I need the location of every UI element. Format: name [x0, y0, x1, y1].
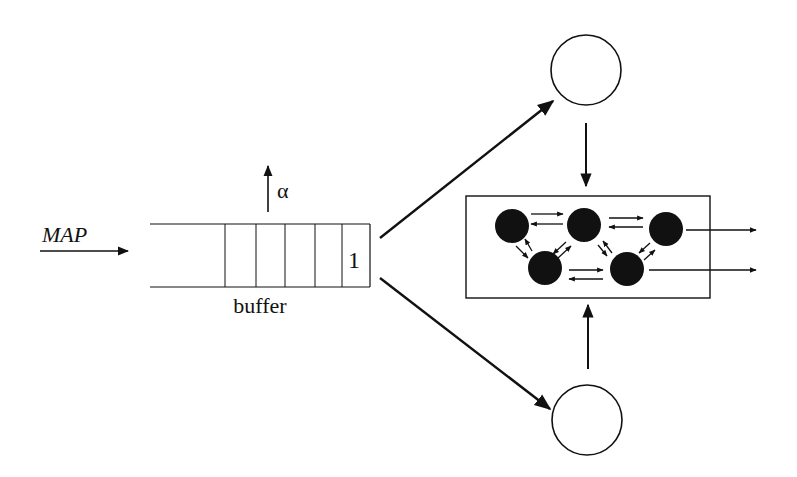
alpha-label: α	[277, 178, 289, 203]
input-arrival: MAP	[40, 222, 128, 251]
server-top-node	[551, 35, 621, 105]
buffer-queue: 1 buffer	[150, 224, 370, 318]
queue-diagram: MAP 1 buffer α	[0, 0, 797, 477]
phase-node	[649, 212, 683, 246]
phase-network	[466, 196, 710, 298]
buffer-slot-one-label: 1	[348, 247, 360, 273]
map-label: MAP	[41, 222, 87, 247]
buffer-label: buffer	[233, 293, 287, 318]
abandonment: α	[268, 166, 289, 212]
phase-node	[567, 208, 601, 242]
phase-node	[528, 251, 562, 285]
phase-node	[495, 209, 529, 243]
server-bottom-node	[552, 385, 622, 455]
phase-node	[610, 252, 644, 286]
